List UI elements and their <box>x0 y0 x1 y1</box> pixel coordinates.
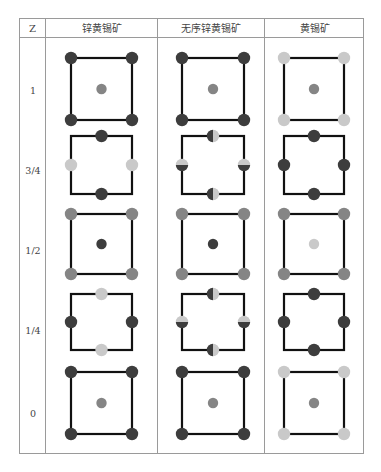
corner-atom <box>338 366 350 378</box>
corner-atom <box>278 366 290 378</box>
corner-atom <box>278 428 290 440</box>
corner-atom <box>338 428 350 440</box>
lattice-stannite-z-0 <box>0 0 381 472</box>
center-atom <box>309 398 319 408</box>
